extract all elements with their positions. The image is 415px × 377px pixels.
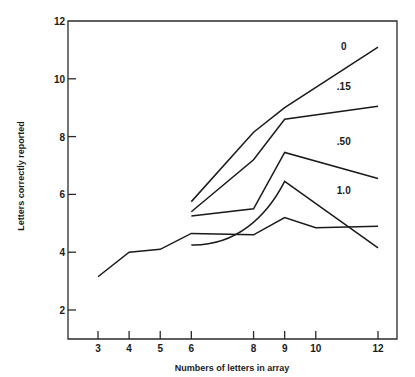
plot-frame <box>68 21 397 339</box>
series-label: 0 <box>341 41 347 52</box>
series-labels: 0.15.501.0 <box>337 41 351 197</box>
x-tick-label: 6 <box>189 343 195 354</box>
y-tick-label: 2 <box>59 305 65 316</box>
y-axis-title: Letters correctly reported <box>16 121 26 231</box>
x-tick-label: 12 <box>372 343 384 354</box>
y-tick-label: 8 <box>59 132 65 143</box>
series-line-0 <box>191 47 378 202</box>
y-tick-label: 6 <box>59 189 65 200</box>
x-tick-label: 5 <box>157 343 163 354</box>
series-label: .15 <box>337 81 351 92</box>
series-line-p50 <box>191 152 378 216</box>
x-tick-label: 3 <box>95 343 101 354</box>
line-chart: 345689101224681012 0.15.501.0 Numbers of… <box>0 0 415 377</box>
series-label: 1.0 <box>337 185 351 196</box>
plot-border <box>68 21 397 339</box>
series-label: .50 <box>337 136 351 147</box>
x-tick-label: 8 <box>251 343 257 354</box>
x-tick-label: 4 <box>126 343 132 354</box>
series-line-baseline <box>98 218 378 277</box>
x-axis-title: Numbers of letters in array <box>175 363 290 373</box>
x-tick-label: 9 <box>282 343 288 354</box>
axis-ticks: 345689101224681012 <box>54 16 384 354</box>
x-tick-label: 10 <box>310 343 322 354</box>
chart-canvas: 345689101224681012 0.15.501.0 Numbers of… <box>0 0 415 377</box>
y-tick-label: 12 <box>54 16 66 27</box>
y-tick-label: 10 <box>54 74 66 85</box>
y-tick-label: 4 <box>59 247 65 258</box>
